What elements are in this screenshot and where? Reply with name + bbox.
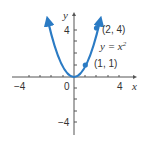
point-label-1-1: (1, 1) [94, 58, 117, 69]
y-axis [74, 14, 77, 135]
y-tick-label-4: 4 [64, 25, 70, 36]
x-axis-label: x [131, 80, 137, 92]
point-2-4 [94, 25, 99, 30]
y-tick-label-neg4: −4 [58, 117, 70, 128]
x-tick-label-0: 0 [64, 81, 70, 92]
x-tick-label-neg4: −4 [14, 81, 26, 92]
y-axis-label: y [62, 9, 68, 21]
point-1-1 [83, 62, 88, 67]
parabola-graph: −4 0 4 4 −4 x y (2, 4) y = x2 (1, 1) [0, 0, 146, 141]
point-label-2-4: (2, 4) [102, 24, 125, 35]
x-tick-label-4: 4 [117, 81, 123, 92]
equation-label: y = x2 [99, 40, 127, 52]
